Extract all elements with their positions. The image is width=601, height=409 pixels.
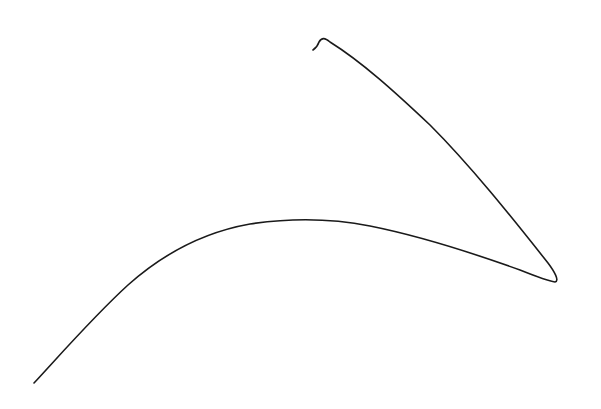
drawing-canvas[interactable]	[0, 0, 601, 409]
freehand-stroke	[34, 39, 557, 383]
drawing-surface	[0, 0, 601, 409]
